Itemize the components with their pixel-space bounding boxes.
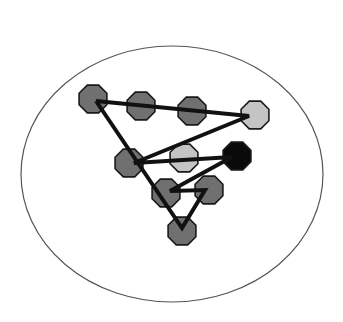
diagram-canvas — [0, 0, 343, 322]
diagram-svg — [0, 0, 343, 322]
boundary-ellipse — [21, 46, 323, 302]
